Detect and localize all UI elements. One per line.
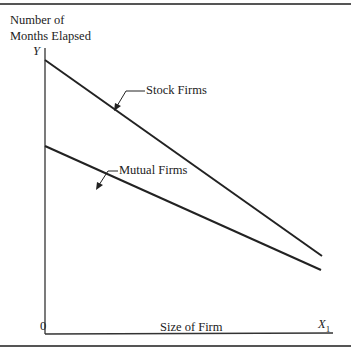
x-symbol: X xyxy=(318,317,326,331)
stock-arrow-icon xyxy=(114,91,145,111)
x-axis-symbol: X1 xyxy=(318,317,330,337)
x-axis-label: Size of Firm xyxy=(160,320,223,335)
mutual-firms-label: Mutual Firms xyxy=(119,163,187,178)
stock-firms-label: Stock Firms xyxy=(146,83,207,98)
x-subscript: 1 xyxy=(326,324,331,334)
origin-label: 0 xyxy=(40,319,46,334)
